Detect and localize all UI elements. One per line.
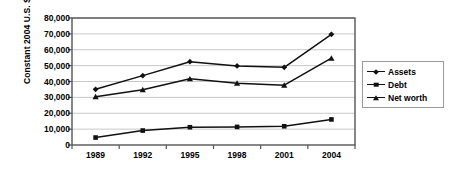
data-point-marker [328, 55, 334, 60]
y-axis-tick-labels: 010,00020,00030,00040,00050,00060,00070,… [34, 0, 70, 188]
data-point-marker [140, 128, 145, 133]
x-axis-tick-label: 1998 [228, 150, 247, 160]
data-point-marker [329, 117, 334, 122]
legend-label: Net worth [388, 93, 427, 103]
data-point-marker [140, 73, 146, 79]
legend-item[interactable]: Assets [366, 65, 441, 78]
y-axis-tick-label: 80,000 [44, 13, 70, 23]
x-axis-tick-label: 1989 [86, 150, 105, 160]
legend-item[interactable]: Debt [366, 78, 441, 91]
legend-marker-triangle-icon [366, 92, 386, 103]
x-axis-tick-label: 1992 [133, 150, 152, 160]
legend-label: Assets [388, 67, 416, 77]
x-axis-tick-label: 2004 [322, 150, 341, 160]
data-point-marker [188, 125, 193, 130]
y-axis-title: Constant 2004 U.S. $ [22, 0, 32, 101]
line-chart: Constant 2004 U.S. $ 010,00020,00030,000… [0, 0, 450, 188]
series-line [96, 119, 332, 137]
y-axis-tick-label: 30,000 [44, 92, 70, 102]
legend-label: Debt [388, 80, 407, 90]
legend: AssetsDebtNet worth [362, 61, 444, 108]
y-axis-tick-label: 50,000 [44, 61, 70, 71]
data-point-marker [93, 135, 98, 140]
y-axis-tick-label: 70,000 [44, 29, 70, 39]
y-axis-tick-label: 60,000 [44, 45, 70, 55]
y-axis-tick-label: 0 [65, 140, 70, 150]
data-point-marker [187, 59, 193, 65]
data-point-marker [93, 86, 99, 92]
data-point-marker [234, 63, 240, 69]
data-point-marker [235, 125, 240, 130]
data-point-marker [282, 124, 287, 129]
legend-marker-diamond-icon [366, 66, 386, 77]
y-axis-tick-label: 20,000 [44, 108, 70, 118]
legend-item[interactable]: Net worth [366, 91, 441, 104]
x-axis-tick-label: 2001 [275, 150, 294, 160]
legend-marker-square-icon [366, 79, 386, 90]
x-axis-tick-label: 1995 [180, 150, 199, 160]
y-axis-tick-label: 40,000 [44, 77, 70, 87]
y-axis-tick-label: 10,000 [44, 124, 70, 134]
